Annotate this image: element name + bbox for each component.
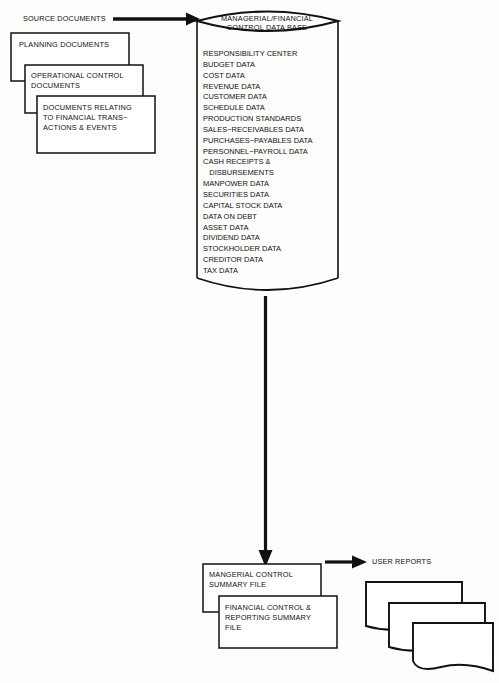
- database-item: CAPITAL STOCK DATA: [203, 201, 338, 212]
- database-item: SECURITIES DATA: [203, 190, 338, 201]
- database-item: DISBURSEMENTS: [203, 168, 338, 179]
- database-item: SCHEDULE DATA: [203, 103, 338, 114]
- database-item: MANPOWER DATA: [203, 179, 338, 190]
- database-item: BUDGET DATA: [203, 60, 338, 71]
- source-document-label-operational: OPERATIONAL CONTROL DOCUMENTS: [31, 71, 124, 91]
- database-item: CUSTOMER DATA: [203, 92, 338, 103]
- database-item: DIVIDEND DATA: [203, 233, 338, 244]
- arrow-source-to-database: [113, 13, 200, 26]
- user-reports-label: USER REPORTS: [372, 557, 431, 566]
- database-item: PURCHASES−PAYABLES DATA: [203, 136, 338, 147]
- database-item: REVENUE DATA: [203, 82, 338, 93]
- database-item: CASH RECEIPTS &: [203, 157, 338, 168]
- user-report-document-front: [413, 623, 493, 671]
- source-documents-label: SOURCE DOCUMENTS: [23, 14, 106, 23]
- arrow-database-to-summary: [259, 296, 273, 567]
- output-file-label-financial: FINANCIAL CONTROL & REPORTING SUMMARY FI…: [225, 603, 311, 634]
- database-item-list: RESPONSIBILITY CENTERBUDGET DATACOST DAT…: [203, 49, 338, 277]
- database-item: STOCKHOLDER DATA: [203, 244, 338, 255]
- source-document-label-planning: PLANNING DOCUMENTS: [19, 40, 109, 50]
- database-item: ASSET DATA: [203, 223, 338, 234]
- arrow-summary-to-user-reports: [325, 556, 367, 569]
- database-item: CREDITOR DATA: [203, 255, 338, 266]
- database-item: PERSONNEL−PAYROLL DATA: [203, 147, 338, 158]
- database-item: PRODUCTION STANDARDS: [203, 114, 338, 125]
- diagram-canvas: SOURCE DOCUMENTS PLANNING DOCUMENTS OPER…: [0, 0, 499, 683]
- source-document-label-transactions: DOCUMENTS RELATING TO FINANCIAL TRANS− A…: [43, 103, 132, 134]
- database-item: SALES−RECEIVABLES DATA: [203, 125, 338, 136]
- database-item: RESPONSIBILITY CENTER: [203, 49, 338, 60]
- database-item: TAX DATA: [203, 266, 338, 277]
- database-item: DATA ON DEBT: [203, 212, 338, 223]
- database-item: COST DATA: [203, 71, 338, 82]
- database-title: MANAGERIAL/FINANCIAL CONTROL DATA BASE: [197, 14, 337, 33]
- output-file-label-managerial: MANGERIAL CONTROL SUMMARY FILE: [209, 570, 293, 590]
